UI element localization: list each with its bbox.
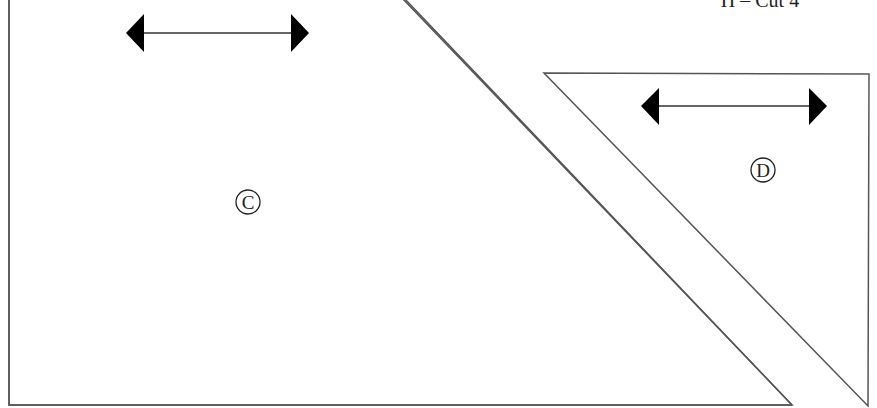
arrowhead-left-icon [126, 14, 144, 52]
piece-c-outline [9, 0, 792, 405]
arrowhead-right-icon [291, 14, 309, 52]
piece-c-label: C [242, 192, 255, 213]
piece-d-label-badge: D [751, 158, 775, 182]
piece-d-label: D [756, 160, 770, 181]
piece-c-hypotenuse [402, 0, 792, 405]
piece-c-label-badge: C [236, 190, 260, 214]
piece-d-outline [544, 73, 869, 406]
pattern-diagram: H – Cut 4 C D [0, 0, 877, 408]
piece-d: D [544, 73, 869, 406]
arrowhead-left-icon [641, 88, 659, 125]
grainline-arrow-c [126, 14, 309, 52]
grainline-arrow-d [641, 88, 827, 125]
piece-c-edges [9, 0, 792, 405]
arrowhead-right-icon [809, 88, 827, 125]
piece-c: C [9, 0, 792, 405]
cut-label: H – Cut 4 [721, 0, 799, 11]
